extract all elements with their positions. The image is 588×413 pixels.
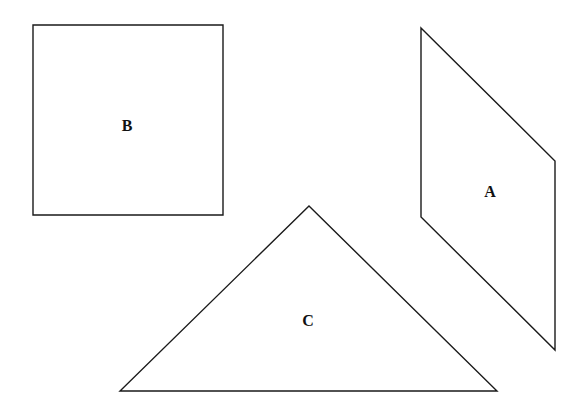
shape-b-square: B	[33, 25, 223, 215]
label-b: B	[122, 117, 133, 134]
label-a: A	[484, 183, 496, 200]
diagram-canvas: B A C	[0, 0, 588, 413]
label-c: C	[302, 312, 314, 329]
